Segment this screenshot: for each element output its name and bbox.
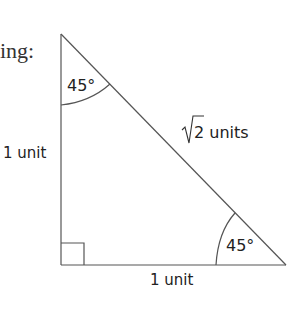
hypotenuse-label: 2 units <box>194 125 249 141</box>
bottom-side-label: 1 unit <box>150 273 193 288</box>
top-angle-label: 45° <box>67 78 95 94</box>
hypotenuse <box>61 34 286 265</box>
right-angle-marker <box>61 243 84 265</box>
left-side-label: 1 unit <box>3 146 46 161</box>
bottom-right-angle-label: 45° <box>226 238 254 254</box>
